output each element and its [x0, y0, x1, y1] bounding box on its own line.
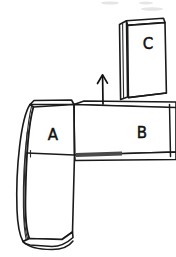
block-b-front-face	[74, 105, 176, 156]
block-a[interactable]: A	[17, 100, 75, 250]
block-b[interactable]: B	[74, 101, 176, 161]
block-a-top-face	[30, 100, 74, 105]
motion-arrow-icon	[98, 75, 108, 104]
blocks-sketch-drawing: C B	[0, 0, 176, 257]
block-b-label: B	[137, 124, 147, 142]
block-a-label: A	[48, 126, 59, 144]
block-b-right-crease	[170, 105, 171, 157]
block-a-right-edge	[74, 105, 75, 156]
sketch-canvas: C B	[0, 0, 176, 257]
block-c[interactable]: C	[120, 18, 167, 99]
block-c-label: C	[143, 35, 153, 53]
paper-smudges	[101, 1, 163, 10]
